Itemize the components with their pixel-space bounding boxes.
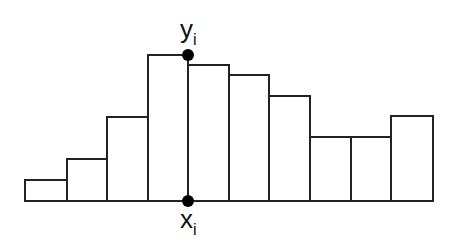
histogram-diagram: yi xi bbox=[0, 0, 458, 244]
histogram-bar bbox=[391, 116, 433, 201]
histogram-bar bbox=[25, 180, 67, 201]
histogram-bar bbox=[229, 75, 269, 201]
histogram-bar bbox=[148, 55, 188, 201]
histogram-bar bbox=[188, 65, 229, 201]
y-label: yi bbox=[180, 14, 197, 48]
histogram-bar bbox=[67, 159, 107, 201]
histogram-bar bbox=[107, 117, 148, 201]
y-marker-dot bbox=[182, 49, 194, 61]
x-label: xi bbox=[180, 204, 197, 238]
histogram-bar bbox=[351, 137, 391, 201]
histogram-bars bbox=[25, 55, 433, 201]
histogram-bar bbox=[269, 96, 310, 201]
histogram-bar bbox=[310, 137, 351, 201]
